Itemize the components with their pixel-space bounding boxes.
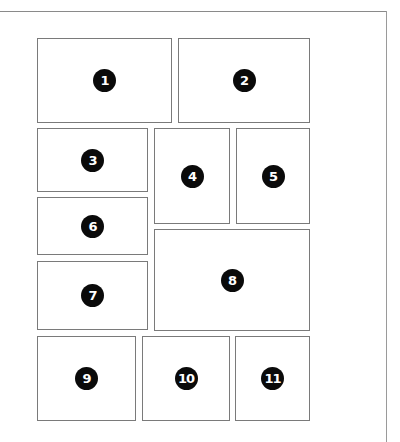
number-badge-1: 1 (93, 69, 116, 92)
number-badge-5: 5 (262, 165, 285, 188)
number-badge-9: 9 (75, 367, 98, 390)
panel-7: 7 (37, 261, 148, 330)
number-badge-6: 6 (81, 215, 104, 238)
panel-9: 9 (37, 336, 136, 421)
frame-right-border (386, 11, 387, 442)
panel-4: 4 (154, 128, 230, 224)
number-badge-4: 4 (181, 165, 204, 188)
panel-6: 6 (37, 197, 148, 255)
number-badge-2: 2 (233, 69, 256, 92)
number-badge-11: 11 (261, 367, 284, 390)
number-badge-8: 8 (221, 269, 244, 292)
panel-1: 1 (37, 38, 172, 123)
number-badge-10: 10 (175, 367, 198, 390)
panel-8: 8 (154, 229, 310, 331)
panel-10: 10 (142, 336, 230, 421)
panel-3: 3 (37, 128, 148, 192)
panel-11: 11 (235, 336, 310, 421)
number-badge-3: 3 (81, 149, 104, 172)
number-badge-7: 7 (81, 284, 104, 307)
frame-top-border (0, 11, 387, 12)
panel-2: 2 (178, 38, 310, 123)
panel-5: 5 (236, 128, 310, 224)
